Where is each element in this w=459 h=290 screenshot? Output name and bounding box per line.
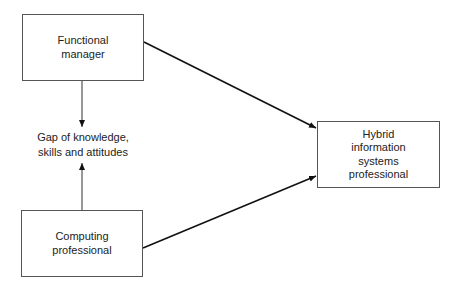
gap-label: Gap of knowledge, skills and attitudes xyxy=(22,130,144,159)
node-functional-manager: Functional manager xyxy=(22,14,144,81)
node-computing-professional: Computing professional xyxy=(21,210,143,277)
arrow-manager-to-hybrid xyxy=(144,42,316,128)
node-label: Functional manager xyxy=(58,34,109,61)
node-hybrid-is-professional: Hybrid information systems professional xyxy=(317,121,440,188)
node-label: Computing professional xyxy=(52,230,111,257)
node-label: Hybrid information systems professional xyxy=(349,128,408,182)
arrow-computing-to-hybrid xyxy=(143,176,316,248)
